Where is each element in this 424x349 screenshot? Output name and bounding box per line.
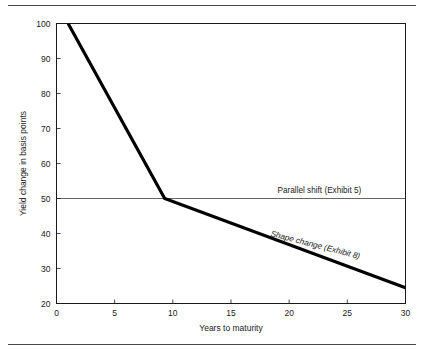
chart-plot-area: 051015202530 2030405060708090100 Paralle… [0, 0, 424, 349]
chart-annotation: Shape change (Exhibit 8) [270, 229, 362, 261]
y-tick-label: 80 [41, 89, 51, 99]
y-tick-label: 100 [36, 19, 50, 29]
figure-container: 051015202530 2030405060708090100 Paralle… [0, 0, 424, 349]
x-axis-tick-labels: 051015202530 [54, 308, 410, 318]
y-tick-label: 20 [41, 299, 51, 309]
y-tick-label: 30 [41, 264, 51, 274]
chart-annotation: Parallel shift (Exhibit 5) [278, 186, 362, 195]
series-line [68, 24, 405, 288]
x-tick-label: 0 [54, 308, 59, 318]
x-axis-ticks [57, 300, 406, 304]
x-tick-label: 10 [168, 308, 178, 318]
x-tick-label: 20 [284, 308, 294, 318]
y-tick-label: 60 [41, 159, 51, 169]
y-tick-label: 70 [41, 124, 51, 134]
y-axis-title: Yield change in basis points [18, 111, 28, 216]
chart-axes-frame [57, 24, 406, 304]
x-axis-title: Years to maturity [199, 323, 263, 333]
y-tick-label: 50 [41, 194, 51, 204]
x-tick-label: 15 [226, 308, 236, 318]
y-axis-ticks [57, 24, 61, 304]
x-tick-label: 30 [401, 308, 411, 318]
x-tick-label: 5 [112, 308, 117, 318]
x-tick-label: 25 [343, 308, 353, 318]
series-shape-change [68, 24, 405, 288]
chart-annotations: Parallel shift (Exhibit 5)Shape change (… [270, 186, 362, 261]
y-axis-tick-labels: 2030405060708090100 [36, 19, 50, 309]
line-chart: 051015202530 2030405060708090100 Paralle… [0, 0, 424, 349]
y-tick-label: 40 [41, 229, 51, 239]
y-tick-label: 90 [41, 54, 51, 64]
